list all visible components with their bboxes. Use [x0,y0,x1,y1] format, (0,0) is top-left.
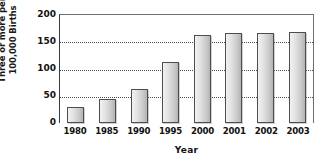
y-axis-tick-labels: 200 150 100 50 0 [28,0,56,164]
y-axis-title: Three or more per 100,000 Births [0,0,27,95]
x-tick-label: 2001 [218,126,250,136]
x-axis-tick-labels: 1980 1985 1990 1995 2000 2001 2002 2003 [59,126,314,136]
bar-2002 [257,33,274,123]
y-tick-label: 200 [32,10,56,19]
x-tick-label: 2003 [282,126,314,136]
bar-series [60,15,313,123]
x-tick-label: 1990 [123,126,155,136]
y-tick-label: 0 [32,118,56,127]
x-tick-label: 1995 [155,126,187,136]
bar-chart-figure: Three or more per 100,000 Births 200 150… [0,0,325,164]
bar-2003 [289,32,306,123]
x-tick-label: 2000 [187,126,219,136]
bar-1980 [67,107,84,123]
x-tick-label: 2002 [250,126,282,136]
bar-slot [123,15,155,123]
bar-1990 [131,89,148,123]
bar-slot [155,15,187,123]
bar-slot [187,15,219,123]
y-axis-title-line-2: 100,000 Births [8,5,18,74]
x-axis-title: Year [59,145,314,155]
y-tick-label: 150 [32,37,56,46]
bar-slot [218,15,250,123]
bar-2000 [194,35,211,123]
bar-slot [250,15,282,123]
y-tick-label: 100 [32,64,56,73]
bar-slot [281,15,313,123]
bar-slot [92,15,124,123]
bar-2001 [225,33,242,123]
x-tick-label: 1980 [59,126,91,136]
bar-1995 [162,62,179,123]
y-tick-label: 50 [32,91,56,100]
plot-area [59,14,314,123]
bar-slot [60,15,92,123]
bar-1985 [99,99,116,123]
x-tick-label: 1985 [91,126,123,136]
y-axis-title-line-1: Three or more per [0,0,7,83]
